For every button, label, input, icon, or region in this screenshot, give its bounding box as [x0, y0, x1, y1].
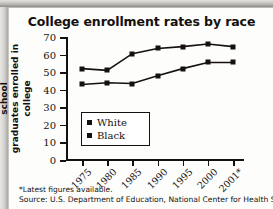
- x-axis-tick: [82, 161, 84, 166]
- scanned-page: College enrollment rates by race Percent…: [0, 0, 273, 209]
- data-point-marker: [205, 42, 210, 47]
- page-edge-top: [0, 0, 273, 7]
- y-axis-tick-label: 70: [43, 32, 56, 43]
- legend-item-white: White: [87, 116, 145, 129]
- y-axis-title: Percentage of high school graduates enro…: [0, 37, 13, 160]
- data-point-marker: [155, 46, 160, 51]
- x-axis-tick: [107, 161, 109, 166]
- x-axis-tick-label: 1990: [144, 166, 169, 191]
- footnote-source: Source: U.S. Department of Education, Na…: [19, 195, 273, 204]
- x-axis-tick: [208, 161, 210, 166]
- y-axis-title-line-1: Percentage of high school: [0, 37, 10, 160]
- y-axis-tick-label: 40: [43, 84, 56, 95]
- chart-title: College enrollment rates by race: [17, 14, 266, 29]
- data-point-marker: [180, 44, 185, 49]
- x-axis-tick-label: 2001*: [217, 166, 245, 194]
- legend-swatch-icon: [87, 120, 92, 125]
- data-point-marker: [180, 66, 185, 71]
- chart-container: College enrollment rates by race Percent…: [9, 8, 273, 209]
- y-axis-tick-label: 30: [43, 102, 56, 113]
- legend-label: White: [97, 117, 127, 128]
- y-axis-tick-label: 50: [43, 67, 56, 78]
- data-point-marker: [231, 44, 236, 49]
- data-point-marker: [155, 73, 160, 78]
- x-axis-tick: [132, 161, 134, 166]
- footnote-latest-figures: *Latest figures available.: [19, 185, 113, 194]
- data-point-marker: [80, 66, 85, 71]
- data-point-marker: [80, 82, 85, 87]
- legend-label: Black: [97, 130, 125, 141]
- x-axis-tick-label: 2000: [195, 166, 220, 191]
- chart-sheet: College enrollment rates by race Percent…: [8, 7, 273, 209]
- legend-swatch-icon: [87, 133, 92, 138]
- data-point-marker: [231, 60, 236, 65]
- x-axis-tick-label: 1985: [119, 166, 144, 191]
- y-axis-title-line-2: graduates enrolled in college: [10, 37, 33, 160]
- y-axis-tick-label: 60: [43, 49, 56, 60]
- data-point-marker: [205, 60, 210, 65]
- y-axis-tick-label: 10: [43, 137, 56, 148]
- data-point-marker: [105, 68, 110, 73]
- y-axis-tick-label: 0: [50, 155, 56, 166]
- x-axis-tick-label: 1995: [170, 166, 195, 191]
- data-point-marker: [130, 51, 135, 56]
- legend-item-black: Black: [87, 129, 145, 142]
- x-axis-tick: [158, 161, 160, 166]
- chart-legend: White Black: [81, 112, 150, 146]
- y-axis-tick-label: 20: [43, 119, 56, 130]
- x-axis-tick: [183, 161, 185, 166]
- x-axis-tick: [233, 161, 235, 166]
- y-axis-tick: 0: [60, 160, 66, 162]
- data-point-marker: [130, 81, 135, 86]
- data-point-marker: [105, 80, 110, 85]
